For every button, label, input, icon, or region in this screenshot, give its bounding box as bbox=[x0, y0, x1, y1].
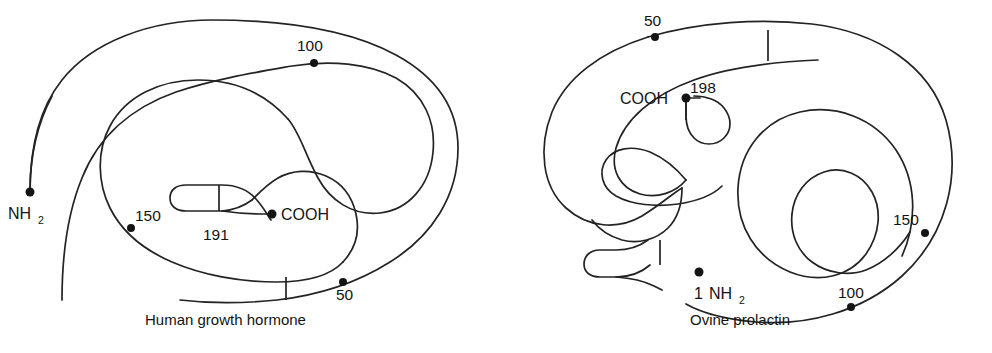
prl-cooh-lobe bbox=[602, 148, 722, 205]
prl-nh2-hairpin bbox=[584, 240, 650, 277]
prl-caption: Ovine prolactin bbox=[690, 311, 790, 328]
prl-label-150: 150 bbox=[893, 211, 919, 228]
prl-label-cooh: COOH bbox=[620, 90, 668, 107]
hgh-marker-dot-100 bbox=[310, 59, 318, 67]
prl-nh2-main: NH bbox=[709, 285, 732, 302]
hgh-nh2-main: NH bbox=[8, 205, 31, 222]
prl-marker-dot-150 bbox=[921, 229, 929, 237]
prl-marker-dot-100 bbox=[847, 303, 855, 311]
hgh-label-100: 100 bbox=[297, 37, 323, 54]
panel-human-growth-hormone: 100 150 50 191 COOH NH 2 Human growth ho… bbox=[8, 20, 458, 328]
prl-nh2-terminus-dot bbox=[695, 268, 704, 277]
prl-outer-left-flank bbox=[544, 37, 682, 225]
prl-nh2-subscript: 2 bbox=[739, 294, 745, 306]
prl-label-50: 50 bbox=[644, 12, 662, 29]
hgh-nh2-terminus-dot bbox=[26, 188, 35, 197]
hgh-n-terminal-tail bbox=[30, 96, 52, 192]
prl-label-nh2: 1 NH 2 bbox=[694, 285, 745, 306]
hgh-caption: Human growth hormone bbox=[145, 311, 306, 328]
hgh-middle-winding bbox=[62, 63, 433, 300]
hgh-label-191: 191 bbox=[203, 226, 229, 243]
prl-lower-left-chain bbox=[592, 188, 682, 242]
hgh-label-50: 50 bbox=[336, 286, 354, 303]
hgh-marker-dot-150 bbox=[127, 224, 135, 232]
prl-middle-winding bbox=[614, 60, 818, 196]
panel-ovine-prolactin: 50 198 COOH 150 100 1 NH 2 Ovine prolact… bbox=[544, 12, 952, 328]
hgh-nh2-subscript: 2 bbox=[38, 214, 44, 226]
prl-label-198: 198 bbox=[690, 79, 716, 96]
hgh-outer-winding bbox=[30, 20, 458, 303]
hgh-marker-dot-50 bbox=[339, 278, 347, 286]
prl-nh2-residue-number: 1 bbox=[694, 285, 703, 302]
prl-inner-right-winding bbox=[738, 110, 913, 278]
figure-canvas: 100 150 50 191 COOH NH 2 Human growth ho… bbox=[0, 0, 992, 353]
hgh-label-nh2: NH 2 bbox=[8, 205, 44, 226]
protein-folding-figure: 100 150 50 191 COOH NH 2 Human growth ho… bbox=[0, 0, 992, 353]
prl-label-100: 100 bbox=[838, 284, 864, 301]
hgh-cooh-terminus-dot bbox=[268, 210, 277, 219]
prl-marker-dot-50 bbox=[651, 33, 659, 41]
hgh-label-cooh: COOH bbox=[281, 206, 329, 223]
hgh-label-150: 150 bbox=[135, 207, 161, 224]
prl-nh2-stem bbox=[616, 277, 662, 290]
prl-cooh-bulb bbox=[686, 96, 730, 144]
